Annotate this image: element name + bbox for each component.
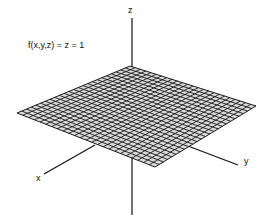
z-axis-label: z	[128, 6, 133, 15]
y-axis-label: y	[244, 157, 249, 166]
equation-label: f(x,y,z) = z = 1	[28, 41, 84, 50]
x-axis-label: x	[36, 174, 41, 183]
plane-diagram	[0, 0, 271, 224]
x-axis	[44, 145, 95, 174]
y-axis	[188, 146, 238, 165]
plane-surface	[17, 66, 256, 167]
